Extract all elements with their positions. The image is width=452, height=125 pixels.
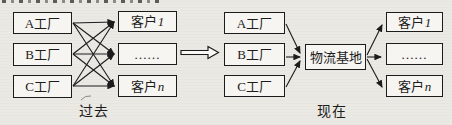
past-customer-n-index: n [158, 80, 165, 93]
past-factory-a-label: A工厂 [25, 17, 60, 30]
past-customer-ellipsis: …… [134, 48, 160, 61]
present-customer-n-index: n [425, 80, 432, 93]
past-factory-b-box: B工厂 [13, 43, 72, 66]
present-customer-ellipsis-box: …… [386, 43, 443, 65]
past-caption: 过去 [70, 105, 118, 119]
past-factory-a-box: A工厂 [13, 12, 72, 34]
present-factory-b-label: B工厂 [237, 48, 272, 61]
past-customer-ellipsis-box: …… [118, 43, 177, 65]
present-customer-n-label: 客户 [398, 80, 424, 93]
present-factory-c-label: C工厂 [237, 80, 272, 93]
past-factory-c-box: C工厂 [13, 75, 72, 98]
past-customer-1-index: 1 [158, 15, 165, 28]
past-factory-c-label: C工厂 [25, 80, 60, 93]
present-inbound-arrows [286, 24, 300, 87]
present-factory-b-box: B工厂 [224, 43, 285, 66]
present-customer-n-box: 客户n [386, 75, 443, 97]
logistics-base-box: 物流基地 [305, 44, 366, 70]
past-crossing-arrows [73, 22, 114, 86]
present-caption: 现在 [308, 105, 356, 119]
logistics-base-label: 物流基地 [310, 51, 362, 64]
stray-pencil-mark [81, 96, 91, 100]
past-customer-n-box: 客户n [118, 75, 177, 97]
present-customer-1-box: 客户1 [386, 12, 443, 32]
present-factory-a-box: A工厂 [224, 12, 285, 34]
present-factory-a-label: A工厂 [237, 17, 272, 30]
transition-hollow-arrow [181, 47, 219, 59]
past-customer-n-label: 客户 [131, 80, 157, 93]
past-customer-1-label: 客户 [131, 15, 157, 28]
past-factory-b-label: B工厂 [25, 48, 60, 61]
past-customer-1-box: 客户1 [118, 11, 177, 32]
present-factory-c-box: C工厂 [224, 75, 285, 97]
present-customer-1-index: 1 [425, 16, 432, 29]
present-customer-ellipsis: …… [401, 48, 427, 61]
present-customer-1-label: 客户 [398, 16, 424, 29]
logistics-distribution-diagram: A工厂 B工厂 C工厂 客户1 …… 客户n 过去 A工厂 B工厂 C工厂 物流… [0, 0, 452, 125]
present-outbound-arrows [367, 25, 382, 87]
